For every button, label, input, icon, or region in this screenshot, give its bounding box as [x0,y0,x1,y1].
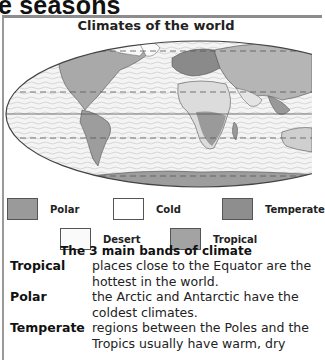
definition-text: regions between the Poles and the Tropic… [92,320,312,351]
legend-label: Tropical [213,234,257,245]
polar-swatch [7,198,38,220]
legend-label: Polar [50,204,79,215]
definition-text: the Arctic and Antarctic have the coldes… [92,289,312,320]
definition-text: places close to the Equator are the hott… [92,258,312,289]
legend-label: Desert [103,234,141,245]
legend-cold: Cold [113,198,181,220]
definition-term: Temperate [10,320,92,351]
legend-polar: Polar [7,198,79,220]
definition-term: Polar [10,289,92,320]
temperate-swatch [222,198,253,220]
legend-temperate: Temperate [222,198,325,220]
world-map [0,38,312,188]
definition-temperate: Temperate regions between the Poles and … [10,320,312,351]
bands-title: The 3 main bands of climate [0,244,312,258]
cold-swatch [113,198,144,220]
definition-term: Tropical [10,258,92,289]
definition-tropical: Tropical places close to the Equator are… [10,258,312,289]
legend-label: Temperate [265,204,325,215]
definition-polar: Polar the Arctic and Antarctic have the … [10,289,312,320]
map-title: Climates of the world [0,18,312,33]
legend-label: Cold [156,204,181,215]
